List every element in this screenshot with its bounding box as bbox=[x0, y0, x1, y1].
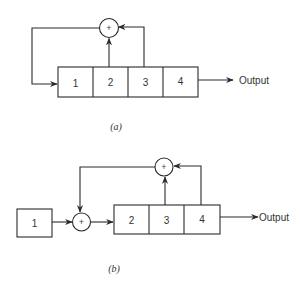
cell-b-4: 4 bbox=[199, 214, 205, 225]
diagram-a: 1 2 3 4 + Output (a) bbox=[32, 19, 269, 133]
shift-register-diagrams: 1 2 3 4 + Output (a) 1 + bbox=[0, 0, 301, 283]
caption-a: (a) bbox=[110, 121, 122, 133]
cell-b-2: 2 bbox=[129, 215, 135, 226]
tap-arrow-a-3 bbox=[119, 27, 145, 67]
shift-register-a: 1 2 3 4 bbox=[58, 67, 198, 97]
cell-a-4: 4 bbox=[178, 76, 184, 87]
plus-icon: + bbox=[106, 23, 111, 33]
plus-icon: + bbox=[161, 162, 166, 172]
output-label-a: Output bbox=[239, 75, 269, 86]
adder-a: + bbox=[100, 19, 119, 38]
plus-icon: + bbox=[79, 217, 84, 227]
cell-b-1: 1 bbox=[32, 218, 38, 229]
cell-a-2: 2 bbox=[108, 77, 114, 88]
caption-b: (b) bbox=[108, 263, 120, 275]
shift-register-b: 2 3 4 bbox=[114, 205, 220, 234]
feedback-adder-b: + bbox=[155, 158, 173, 176]
diagram-b: 1 + 2 3 4 + Output bbox=[17, 158, 289, 275]
cell-a-3: 3 bbox=[143, 77, 149, 88]
cell-a-1: 1 bbox=[73, 78, 79, 89]
cell-b-3: 3 bbox=[164, 215, 170, 226]
tap-arrow-b-4 bbox=[174, 166, 201, 205]
input-adder-b: + bbox=[73, 213, 91, 231]
output-label-b: Output bbox=[259, 212, 289, 223]
